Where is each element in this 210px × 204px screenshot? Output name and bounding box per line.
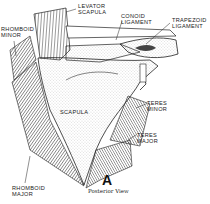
clavicle-and-ligaments	[66, 26, 178, 62]
label-levator-scapula: LEVATOR SCAPULA	[78, 3, 106, 15]
label-trapezoid-ligament: TRAPEZOID LIGAMENT	[172, 17, 207, 29]
label-rhomboid-minor: RHOMBOID MINOR	[1, 26, 34, 38]
levator-scapula-muscle	[34, 8, 70, 60]
label-conoid-ligament: CONOID LIGAMENT	[121, 13, 152, 25]
label-teres-major: TERES MAJOR	[137, 132, 158, 144]
label-teres-minor: TERES MINOR	[147, 100, 167, 112]
figure-letter: A	[102, 172, 112, 188]
label-scapula: SCAPULA	[60, 109, 88, 115]
label-rhomboid-major: RHOMBOID MAJOR	[12, 185, 45, 197]
scapula-posterior-view-diagram: LEVATOR SCAPULA CONOID LIGAMENT TRAPEZOI…	[0, 0, 210, 204]
figure-caption: Posterior View	[88, 188, 129, 194]
